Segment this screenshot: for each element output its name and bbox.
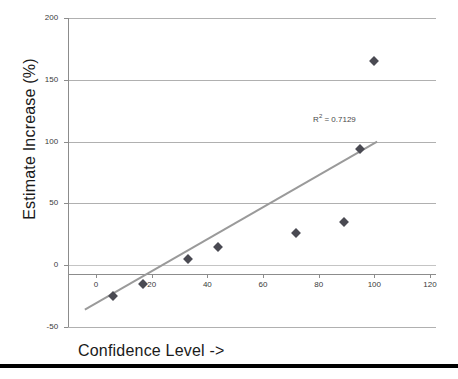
chart-figure: -50050100150200020406080100120 R2 = 0.71…	[0, 0, 458, 379]
y-axis-tick	[64, 18, 68, 19]
gridline-horizontal	[68, 18, 435, 19]
y-axis-line	[68, 18, 69, 327]
y-axis-tick-label: 0	[28, 260, 58, 269]
gridline-horizontal	[68, 265, 435, 266]
gridline-horizontal	[68, 80, 435, 81]
y-axis-tick	[64, 265, 68, 266]
r-squared-annotation: R2 = 0.7129	[313, 113, 356, 124]
y-axis-title: Estimate Increase (%)	[21, 29, 39, 249]
y-axis-tick	[64, 142, 68, 143]
x-axis-tick	[374, 274, 375, 278]
x-axis-tick-label: 120	[415, 280, 445, 289]
y-axis-tick-label: -50	[28, 322, 58, 331]
x-axis-tick	[207, 274, 208, 278]
x-axis-tick-label: 80	[304, 280, 334, 289]
x-axis-tick	[263, 274, 264, 278]
r-squared-value: = 0.7129	[322, 115, 356, 124]
gridline-horizontal	[68, 203, 435, 204]
x-axis-tick-label: 60	[248, 280, 278, 289]
x-axis-tick-label: 0	[81, 280, 111, 289]
x-axis-tick-label: 100	[359, 280, 389, 289]
x-axis-tick	[430, 274, 431, 278]
x-axis-tick-label: 40	[192, 280, 222, 289]
x-axis-tick	[96, 274, 97, 278]
y-axis-tick	[64, 80, 68, 81]
x-axis-tick	[319, 274, 320, 278]
gridline-horizontal	[68, 142, 435, 143]
plot-area: -50050100150200020406080100120	[0, 0, 458, 379]
x-axis-line	[68, 274, 435, 275]
x-axis-tick	[152, 274, 153, 278]
y-axis-tick	[64, 203, 68, 204]
gridline-horizontal	[68, 327, 435, 328]
x-axis-title: Confidence Level ->	[78, 342, 225, 360]
y-axis-tick	[64, 327, 68, 328]
y-axis-tick-label: 200	[28, 13, 58, 22]
bottom-divider	[0, 364, 458, 368]
